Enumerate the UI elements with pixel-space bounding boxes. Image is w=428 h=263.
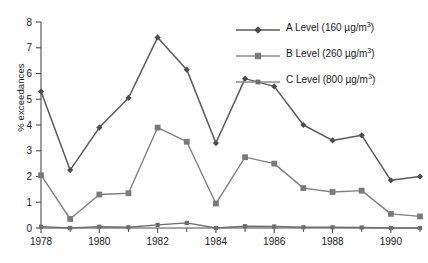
svg-text:1986: 1986	[263, 236, 286, 247]
legend-item-a-level: A Level (160 µg/m3)	[236, 22, 375, 34]
y-axis-title: % exceedances	[15, 48, 26, 148]
svg-text:8: 8	[26, 17, 32, 28]
svg-text:1988: 1988	[321, 236, 344, 247]
legend-marker-small-square	[236, 74, 280, 86]
legend-marker-diamond	[236, 22, 280, 34]
svg-text:7: 7	[26, 42, 32, 53]
svg-text:1: 1	[26, 197, 32, 208]
svg-text:0: 0	[26, 223, 32, 234]
chart-legend: A Level (160 µg/m3) B Level (260 µg/m3) …	[236, 22, 375, 86]
svg-text:1980: 1980	[88, 236, 111, 247]
legend-label-b-level: B Level (260 µg/m3)	[286, 48, 375, 60]
legend-item-c-level: C Level (800 µg/m3)	[236, 74, 375, 86]
legend-marker-square	[236, 48, 280, 60]
legend-item-b-level: B Level (260 µg/m3)	[236, 48, 375, 60]
legend-label-a-level: A Level (160 µg/m3)	[286, 22, 374, 34]
svg-text:4: 4	[26, 120, 32, 131]
svg-text:2: 2	[26, 171, 32, 182]
svg-text:3: 3	[26, 145, 32, 156]
chart-container: 012345678 1978198019821984198619881990 %…	[0, 0, 428, 263]
svg-text:1978: 1978	[30, 236, 53, 247]
legend-label-c-level: C Level (800 µg/m3)	[286, 74, 375, 86]
svg-text:1990: 1990	[380, 236, 403, 247]
svg-text:6: 6	[26, 68, 32, 79]
svg-text:1982: 1982	[146, 236, 169, 247]
y-axis: 012345678	[26, 17, 41, 234]
x-axis: 1978198019821984198619881990	[30, 228, 420, 247]
svg-text:5: 5	[26, 94, 32, 105]
svg-text:1984: 1984	[205, 236, 228, 247]
